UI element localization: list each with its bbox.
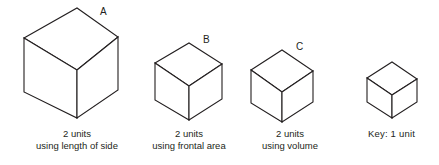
cube-b-group: B xyxy=(155,34,222,120)
cube-key-group xyxy=(367,62,417,118)
cube-comparison-figure: A B C 2 units using length of side 2 uni… xyxy=(0,0,439,165)
cube-b-label: B xyxy=(203,34,210,45)
caption-cube-a-line1: 2 units xyxy=(12,128,142,140)
cube-a-label: A xyxy=(100,6,107,17)
caption-cube-b-line1: 2 units xyxy=(134,128,244,140)
caption-cube-a: 2 units using length of side xyxy=(12,128,142,152)
caption-cube-b: 2 units using frontal area xyxy=(134,128,244,152)
caption-cube-a-line2: using length of side xyxy=(12,140,142,152)
caption-key: Key: 1 unit xyxy=(344,128,439,140)
cube-a-group: A xyxy=(24,6,118,118)
cube-c-group: C xyxy=(251,41,313,122)
caption-cube-c-line1: 2 units xyxy=(239,128,341,140)
caption-cube-c-line2: using volume xyxy=(239,140,341,152)
caption-cube-c: 2 units using volume xyxy=(239,128,341,152)
caption-cube-b-line2: using frontal area xyxy=(134,140,244,152)
cube-c-label: C xyxy=(296,41,303,52)
caption-key-line1: Key: 1 unit xyxy=(344,128,439,140)
